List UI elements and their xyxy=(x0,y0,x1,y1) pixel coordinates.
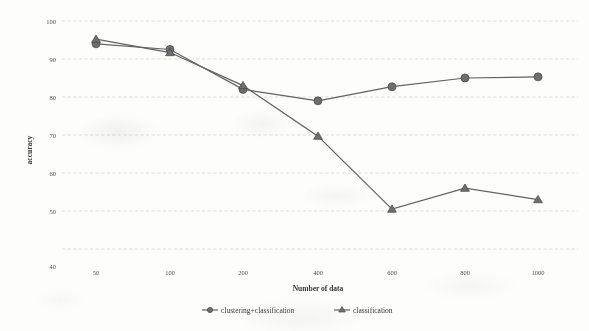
data-point-circle[interactable] xyxy=(388,83,396,91)
legend-label-1: classification xyxy=(353,306,393,315)
data-point-circle[interactable] xyxy=(314,97,322,105)
data-point-triangle[interactable] xyxy=(314,132,323,139)
x-tick-label-1000: 1000 xyxy=(532,269,545,276)
x-axis-title: Number of data xyxy=(293,284,344,293)
x-tick-label-200: 200 xyxy=(238,269,248,276)
data-point-triangle[interactable] xyxy=(461,184,470,191)
legend-triangle-marker-icon xyxy=(339,307,346,312)
y-tick-label-70: 70 xyxy=(50,132,57,139)
x-axis-ticks: 50 100 200 400 600 800 1000 xyxy=(93,269,545,276)
chart-figure: 100 90 80 70 60 50 40 accuracy 50 100 20… xyxy=(0,0,589,331)
x-tick-label-100: 100 xyxy=(165,269,175,276)
y-tick-label-90: 90 xyxy=(50,56,57,63)
line-chart-svg: 100 90 80 70 60 50 40 accuracy 50 100 20… xyxy=(0,0,589,331)
y-tick-label-60: 60 xyxy=(50,170,57,177)
y-axis-title: accuracy xyxy=(25,135,34,164)
series-line-1 xyxy=(96,39,538,209)
series-layer xyxy=(92,35,543,212)
x-tick-label-50: 50 xyxy=(93,269,100,276)
y-axis-ticks: 100 90 80 70 60 50 40 xyxy=(46,18,56,270)
legend-item-classification[interactable]: classification xyxy=(334,306,393,315)
data-point-triangle[interactable] xyxy=(239,81,248,88)
x-tick-label-600: 600 xyxy=(387,269,397,276)
series-line-0 xyxy=(96,44,538,101)
y-tick-label-80: 80 xyxy=(50,94,57,101)
data-point-circle[interactable] xyxy=(534,73,542,81)
data-point-triangle[interactable] xyxy=(92,35,101,42)
x-tick-label-800: 800 xyxy=(460,269,470,276)
y-tick-label-50: 50 xyxy=(50,208,57,215)
legend-circle-marker-icon xyxy=(207,307,212,312)
data-point-circle[interactable] xyxy=(461,74,469,82)
x-tick-label-400: 400 xyxy=(313,269,323,276)
chart-legend: clustering+classification classification xyxy=(202,306,393,315)
legend-label-0: clustering+classification xyxy=(221,306,295,315)
series-classification xyxy=(92,35,543,212)
y-tick-label-100: 100 xyxy=(46,18,56,25)
legend-item-clustering-classification[interactable]: clustering+classification xyxy=(202,306,295,315)
y-tick-label-40: 40 xyxy=(50,263,57,270)
series-clustering-classification xyxy=(92,40,542,105)
